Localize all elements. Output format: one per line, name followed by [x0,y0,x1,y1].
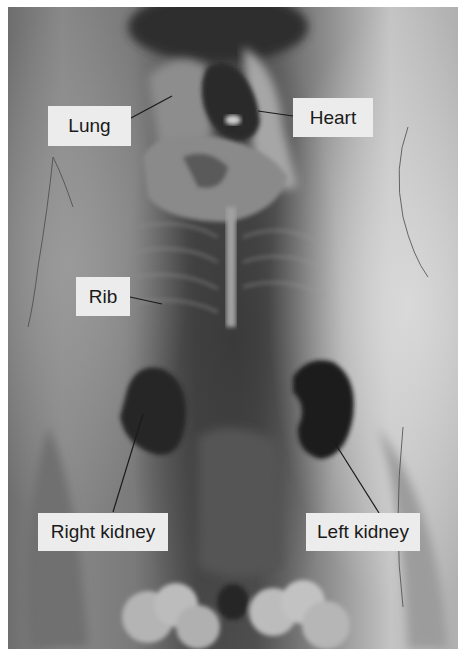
label-left-kidney: Left kidney [306,513,420,551]
label-lung: Lung [48,106,131,146]
anatomy-shapes [8,7,458,649]
label-heart: Heart [293,98,373,137]
dissection-photo [8,7,458,649]
label-rib: Rib [76,277,130,316]
label-right-kidney: Right kidney [38,513,168,551]
